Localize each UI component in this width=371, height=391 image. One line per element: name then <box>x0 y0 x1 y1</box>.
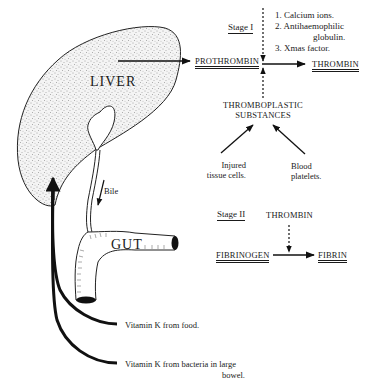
factor-1: 1. Calcium ions. <box>275 10 334 20</box>
blood-line1: Blood <box>291 161 312 171</box>
stage2-label: Stage II <box>217 209 245 221</box>
factor-2: 2. Antihaemophilic <box>275 21 344 31</box>
vitamin-k-bacteria-line2: bowel. <box>200 370 245 380</box>
prothrombin-label: PROTHROMBIN <box>195 56 259 69</box>
thrombin-label: THROMBIN <box>312 59 359 72</box>
liver-label: LIVER <box>90 74 136 90</box>
injured-line1: Injured <box>186 160 246 170</box>
vitamin-k-bacteria-line1: Vitamin K from bacteria in large <box>125 359 236 369</box>
factor-3: 3. Xmas factor. <box>275 43 330 53</box>
stage2-thrombin-label: THROMBIN <box>266 210 313 220</box>
blood-line2: platelets. <box>291 171 321 181</box>
fibrinogen-label: FIBRINOGEN <box>216 250 269 263</box>
vitamin-k-food-label: Vitamin K from food. <box>125 320 199 330</box>
gut-label: GUT <box>111 237 143 253</box>
bile-label: Bile <box>104 186 118 196</box>
stage1-label: Stage I <box>228 22 253 34</box>
thromboplastic-line2: SUBSTANCES <box>222 110 304 120</box>
factor-2-cont: globulin. <box>313 32 345 42</box>
injured-line2: tissue cells. <box>186 170 246 180</box>
thromboplastic-line1: THROMBOPLASTIC <box>222 100 304 110</box>
fibrin-label: FIBRIN <box>318 250 347 263</box>
